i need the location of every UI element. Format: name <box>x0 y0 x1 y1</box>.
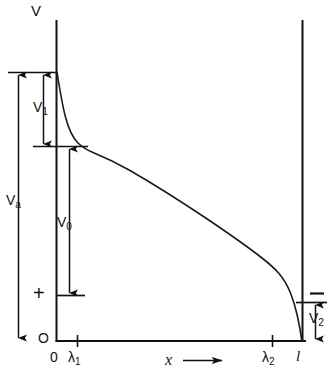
y-origin-label: O <box>38 331 49 345</box>
potential-distribution-figure <box>0 0 334 383</box>
y-axis-label: V <box>31 3 41 18</box>
annotation-V2-base: V <box>309 310 318 326</box>
lambda2-base: λ <box>262 349 269 365</box>
annotation-label-V2: V2 <box>309 311 324 328</box>
lambda2-sub: 2 <box>269 356 275 367</box>
annotation-label-Va: Va <box>6 193 21 210</box>
annotation-V1-sub: 1 <box>42 106 48 117</box>
lambda1-sub: 1 <box>75 356 81 367</box>
annotation-Va-base: V <box>6 192 15 208</box>
x-tick-label-lambda2: λ2 <box>262 350 275 367</box>
x-tick-label-lambda1: λ1 <box>68 350 81 367</box>
positive-polarity-label: + <box>33 283 45 303</box>
annotation-V1-base: V <box>33 99 42 115</box>
x-axis-label: x <box>165 352 172 368</box>
x-origin-label: 0 <box>50 350 58 364</box>
annotation-label-V0: V0 <box>57 215 72 232</box>
annotation-V0-base: V <box>57 214 66 230</box>
x-tick-label-ell: l <box>296 349 300 364</box>
annotation-V2-sub: 2 <box>318 317 324 328</box>
annotation-label-V1: V1 <box>33 100 48 117</box>
annotation-V0-sub: 0 <box>66 221 72 232</box>
lambda1-base: λ <box>68 349 75 365</box>
annotation-Va-sub: a <box>15 199 21 210</box>
potential-curve <box>57 72 302 341</box>
